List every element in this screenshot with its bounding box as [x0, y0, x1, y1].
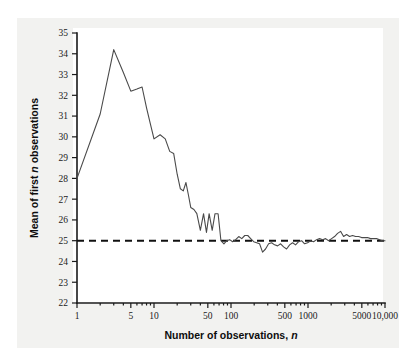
running-mean-line — [77, 50, 385, 253]
y-tick-label-24: 24 — [59, 257, 69, 267]
x-tick-label-1000: 1000 — [299, 311, 318, 321]
y-tick-label-30: 30 — [59, 132, 69, 142]
y-tick-label-31: 31 — [59, 111, 69, 121]
y-tick-label-34: 34 — [59, 49, 69, 59]
line-chart-figure: 2223242526272829303132333435 15105010050… — [0, 0, 416, 364]
y-tick-label-26: 26 — [59, 215, 69, 225]
x-tick-label-10: 10 — [149, 311, 159, 321]
y-tick-label-29: 29 — [59, 153, 69, 163]
y-tick-label-25: 25 — [59, 236, 69, 246]
y-tick-label-33: 33 — [59, 70, 69, 80]
y-axis-tick-labels: 2223242526272829303132333435 — [59, 28, 69, 308]
x-axis-tick-labels: 1510501005001000500010,000 — [75, 311, 399, 321]
y-axis-title: Mean of first n observations — [28, 98, 40, 238]
x-axis-title: Number of observations,n — [164, 329, 297, 341]
y-tick-label-28: 28 — [59, 174, 69, 184]
y-tick-label-22: 22 — [59, 298, 69, 308]
chart-page: 2223242526272829303132333435 15105010050… — [0, 0, 416, 364]
y-tick-label-32: 32 — [59, 91, 69, 101]
x-tick-label-1: 1 — [75, 311, 80, 321]
x-tick-label-100: 100 — [224, 311, 239, 321]
x-tick-label-5000: 5000 — [352, 311, 371, 321]
y-tick-label-23: 23 — [59, 278, 69, 288]
x-tick-label-10000: 10,000 — [372, 311, 398, 321]
x-tick-label-500: 500 — [278, 311, 293, 321]
y-tick-label-35: 35 — [59, 28, 69, 38]
y-tick-label-27: 27 — [59, 195, 69, 205]
x-tick-label-50: 50 — [203, 311, 213, 321]
x-tick-label-5: 5 — [128, 311, 133, 321]
